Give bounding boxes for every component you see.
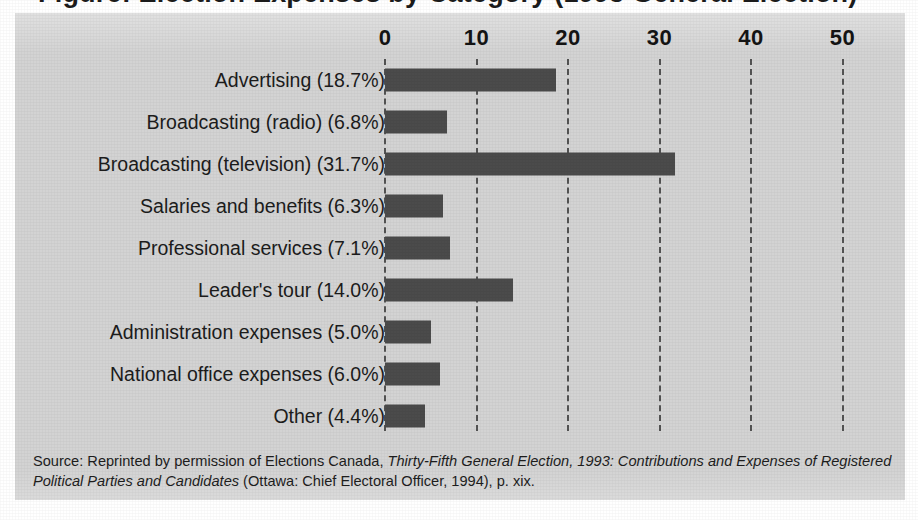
x-tick-label-50: 50	[830, 25, 855, 51]
bar-row: Salaries and benefits (6.3%)	[15, 185, 905, 227]
category-label: Advertising (18.7%)	[215, 69, 385, 92]
source-tail: (Ottawa: Chief Electoral Officer, 1994),…	[239, 473, 535, 489]
bar-row: Professional services (7.1%)	[15, 227, 905, 269]
bar-row: Advertising (18.7%)	[15, 59, 905, 101]
bar-row: Other (4.4%)	[15, 395, 905, 437]
bar	[385, 405, 425, 428]
category-label: Professional services (7.1%)	[138, 237, 385, 260]
bar-row: Broadcasting (radio) (6.8%)	[15, 101, 905, 143]
x-tick-label-10: 10	[464, 25, 489, 51]
bar	[385, 111, 447, 134]
x-tick-label-30: 30	[647, 25, 672, 51]
bar-row: Leader's tour (14.0%)	[15, 269, 905, 311]
category-label: Salaries and benefits (6.3%)	[140, 195, 385, 218]
category-label: Broadcasting (radio) (6.8%)	[147, 111, 385, 134]
figure-container: Figure: Election Expenses by Category (1…	[0, 0, 918, 520]
bar-row: Broadcasting (television) (31.7%)	[15, 143, 905, 185]
bar	[385, 69, 556, 92]
source-lead: Source: Reprinted by permission of Elect…	[33, 453, 388, 469]
bar	[385, 195, 443, 218]
figure-title: Figure: Election Expenses by Category (1…	[38, 0, 857, 9]
bar	[385, 237, 450, 260]
source-note: Source: Reprinted by permission of Elect…	[33, 451, 893, 491]
figure-title-strip: Figure: Election Expenses by Category (1…	[0, 0, 918, 13]
category-label: Other (4.4%)	[273, 405, 385, 428]
chart-panel: 01020304050 Advertising (18.7%)Broadcast…	[15, 13, 905, 500]
bar-row: Administration expenses (5.0%)	[15, 311, 905, 353]
bar	[385, 153, 675, 176]
category-label: Broadcasting (television) (31.7%)	[98, 153, 385, 176]
bar	[385, 321, 431, 344]
x-tick-label-20: 20	[555, 25, 580, 51]
category-label: Leader's tour (14.0%)	[198, 279, 385, 302]
bar-row: National office expenses (6.0%)	[15, 353, 905, 395]
category-label: National office expenses (6.0%)	[110, 363, 385, 386]
chart-plot-area: 01020304050 Advertising (18.7%)Broadcast…	[15, 13, 905, 443]
x-tick-label-0: 0	[379, 25, 392, 51]
bar	[385, 363, 440, 386]
category-label: Administration expenses (5.0%)	[110, 321, 385, 344]
bar	[385, 279, 513, 302]
x-tick-label-40: 40	[738, 25, 763, 51]
